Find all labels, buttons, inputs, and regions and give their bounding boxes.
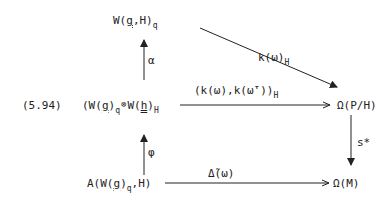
diagonal-label: k(ω)H [258,52,289,63]
bl-p3: ,H) [132,177,152,190]
middle-label-sub: H [273,91,278,100]
node-top-sub: q [153,21,158,30]
ml-sub1: q [115,106,120,115]
node-bottom-left: A(W(g)q,H) [87,178,151,189]
node-top-rest: ,H) [133,14,153,27]
s-star-label: s* [357,137,370,148]
node-top-text: W( [113,14,126,27]
tensor-symbol: ⊗ [121,99,126,109]
node-middle-right: Ω(P/H) [337,100,377,111]
ml-g: g [102,99,109,112]
bl-p2: ) [120,177,127,190]
node-top: W(g,H)q [113,15,158,26]
ml-p4: ) [147,99,154,112]
node-bottom-right: Ω(M) [333,178,360,189]
ml-p1: (W( [82,99,102,112]
ml-p3: W( [127,99,140,112]
equation-label: (5.94) [22,100,62,111]
bl-sub: q [127,184,132,193]
phi-label: φ [148,147,155,158]
ml-sub2: H [154,106,159,115]
middle-label: (k(ω),k(ω̄'))H [194,85,278,96]
middle-label-text: (k(ω),k(ω̄')) [194,84,273,97]
alpha-label: α [148,55,155,66]
diagonal-label-sub: H [285,58,290,67]
node-top-g: g [126,14,133,27]
diagonal-label-text: k(ω) [258,51,285,64]
bl-p1: A(W( [87,177,114,190]
node-middle-left: (W(g)q⊗W(h)H [82,100,159,111]
bottom-label: Δ̃(ω) [208,168,235,179]
